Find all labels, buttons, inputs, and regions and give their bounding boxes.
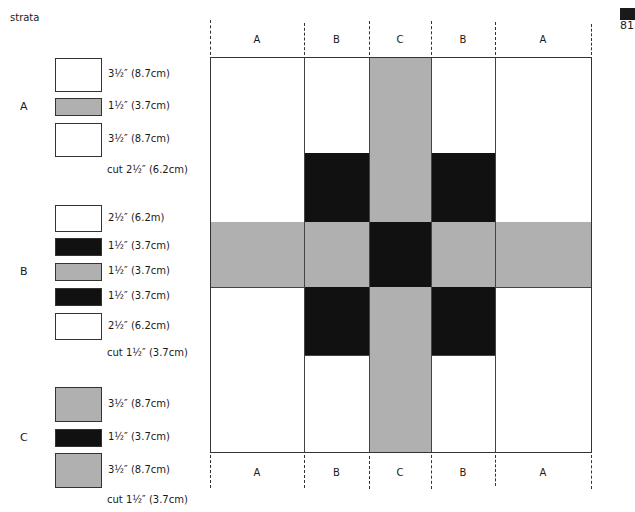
strata-a-strip-3 (55, 123, 102, 157)
column-seam-line (495, 57, 496, 453)
block-cell-col5-row3-white (495, 287, 591, 453)
dashed-divider (431, 21, 432, 55)
block-cell-col4-row3-gray (431, 222, 495, 287)
strata-a-strip-3-label: 3½″ (8.7cm) (108, 133, 170, 145)
block-cell-col2-row3-gray (304, 222, 369, 287)
top-label-col-2: B (304, 34, 369, 45)
dashed-divider (369, 21, 370, 55)
dashed-divider (495, 22, 496, 55)
strata-b-letter: B (20, 265, 28, 278)
bottom-label-col-1: A (210, 467, 304, 478)
column-seam-line (369, 57, 370, 453)
strata-b-strip-2 (55, 238, 102, 256)
strata-b-strip-3 (55, 263, 102, 281)
strata-c-strip-1 (55, 387, 102, 422)
top-label-col-1: A (210, 34, 304, 45)
strata-title: strata (10, 12, 39, 23)
dashed-divider (304, 455, 305, 488)
strata-b-strip-1-label: 2½″ (6.2m) (108, 212, 164, 224)
strata-a-strip-1-label: 3½″ (8.7cm) (108, 68, 170, 80)
dashed-divider (369, 456, 370, 489)
block-cell-col2-row5-white (304, 355, 369, 453)
block-cell-col1-row2-gray (210, 222, 304, 287)
top-label-col-5: A (495, 34, 591, 45)
strata-b-cut-label: cut 1½″ (3.7cm) (107, 347, 188, 358)
strata-c-strip-2 (55, 429, 102, 447)
block-cell-col2-row2-black (304, 153, 369, 222)
bottom-label-col-2: B (304, 467, 369, 478)
block-cell-col1-row1-white (210, 57, 304, 222)
strata-a-cut-label: cut 2½″ (6.2cm) (107, 164, 188, 175)
strata-b-strip-2-label: 1½″ (3.7cm) (108, 240, 170, 252)
block-cell-col4-row1-white (431, 57, 495, 153)
dashed-divider (495, 455, 496, 486)
block-cell-col4-row2-black (431, 153, 495, 222)
top-label-col-4: B (431, 34, 495, 45)
bottom-label-col-5: A (495, 467, 591, 478)
strata-c-cut-label: cut 1½″ (3.7cm) (107, 494, 188, 505)
page-number: 81 (620, 19, 634, 32)
bottom-label-col-3: C (369, 467, 431, 478)
bottom-label-col-4: B (431, 467, 495, 478)
strata-c-strip-2-label: 1½″ (3.7cm) (108, 431, 170, 443)
block-cell-col5-row2-gray (495, 222, 591, 287)
top-label-col-3: C (369, 34, 431, 45)
strata-c-strip-3 (55, 453, 102, 488)
block-cell-col3-row3-gray (369, 287, 431, 453)
strata-c-letter: C (20, 431, 28, 444)
strata-a-strip-2-label: 1½″ (3.7cm) (108, 100, 170, 112)
block-cell-col3-row2-black (369, 222, 431, 287)
strata-c-strip-3-label: 3½″ (8.7cm) (108, 464, 170, 476)
strata-b-strip-1 (55, 205, 102, 232)
strata-a-strip-1 (55, 58, 102, 92)
dashed-divider (591, 24, 592, 55)
strata-a-strip-2 (55, 98, 102, 116)
block-cell-col3-row1-gray (369, 57, 431, 222)
block-cell-col4-row4-black (431, 287, 495, 355)
dashed-divider (431, 455, 432, 489)
column-seam-line (431, 57, 432, 453)
dashed-divider (210, 20, 211, 55)
strata-b-strip-5 (55, 313, 102, 340)
strata-b-strip-4-label: 1½″ (3.7cm) (108, 290, 170, 302)
dashed-divider (304, 23, 305, 55)
block-cell-col2-row1-white (304, 57, 369, 153)
block-cell-col2-row4-black (304, 287, 369, 355)
strata-b-strip-5-label: 2½″ (6.2cm) (108, 320, 170, 332)
column-seam-line (304, 57, 305, 453)
block-cell-col1-row3-white (210, 287, 304, 453)
block-cell-col5-row1-white (495, 57, 591, 222)
strata-b-strip-4 (55, 288, 102, 306)
block-cell-col4-row5-white (431, 355, 495, 453)
strata-c-strip-1-label: 3½″ (8.7cm) (108, 398, 170, 410)
dashed-divider (591, 455, 592, 489)
dashed-divider (210, 455, 211, 488)
strata-b-strip-3-label: 1½″ (3.7cm) (108, 265, 170, 277)
strata-a-letter: A (20, 100, 28, 113)
